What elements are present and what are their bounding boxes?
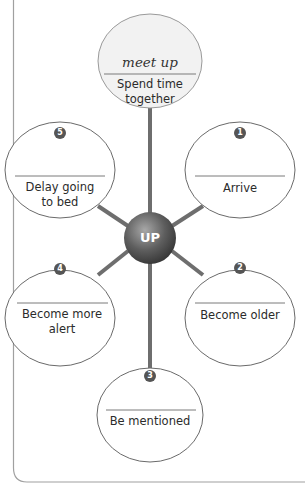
top-node-definition-line2: together xyxy=(100,92,200,107)
node-2-definition: Become older xyxy=(190,308,290,323)
node-5-definition-line1: Delay going xyxy=(10,180,110,195)
badge-number-4: 4 xyxy=(54,263,66,275)
answer-blank-5[interactable] xyxy=(15,158,105,174)
answer-blank-1[interactable] xyxy=(195,158,285,174)
badge-number-2: 2 xyxy=(234,262,246,274)
answer-blank-2[interactable] xyxy=(195,285,285,301)
top-node-phrasal-verb: meet up xyxy=(100,54,200,70)
node-5-definition-line2: to bed xyxy=(10,195,110,210)
badge-number-5: 5 xyxy=(54,127,66,139)
node-4-definition-line2: alert xyxy=(12,322,112,337)
node-4-definition-line1: Become more xyxy=(12,307,112,322)
badge-number-3: 3 xyxy=(144,370,156,382)
top-node-definition-line1: Spend time xyxy=(100,77,200,92)
answer-blank-3[interactable] xyxy=(106,392,196,408)
answer-blank-4[interactable] xyxy=(17,285,107,301)
node-3-definition: Be mentioned xyxy=(100,414,200,429)
center-label: UP xyxy=(124,230,176,245)
badge-number-1: 1 xyxy=(234,127,246,139)
node-1-definition: Arrive xyxy=(190,181,290,196)
